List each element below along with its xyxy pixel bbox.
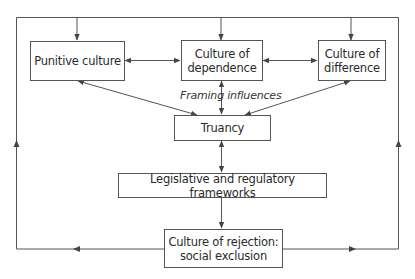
- loop-arrow-right: [349, 246, 356, 252]
- loop-arrow-up-right: [396, 140, 402, 147]
- loop-arrow-left: [73, 246, 80, 252]
- node-truancy: Truancy: [174, 115, 271, 141]
- node-punitive-culture: Punitive culture: [30, 41, 125, 81]
- node-label-line2: difference: [324, 61, 380, 75]
- node-label-line1: Culture of rejection:: [168, 235, 278, 249]
- node-culture-of-difference: Culture of difference: [318, 40, 386, 81]
- framing-influences-label: Framing influences: [180, 89, 281, 102]
- loop-arrow-up-left: [14, 140, 20, 147]
- node-label: Punitive culture: [34, 54, 121, 68]
- node-label-line2: dependence: [187, 61, 256, 75]
- node-culture-of-rejection: Culture of rejection: social exclusion: [164, 229, 283, 268]
- node-culture-of-dependence: Culture of dependence: [181, 40, 263, 81]
- node-label: Truancy: [201, 121, 244, 135]
- node-label-line1: Culture of: [195, 47, 250, 61]
- node-legislative-frameworks: Legislative and regulatory frameworks: [118, 173, 327, 198]
- node-label-line1: Culture of: [325, 47, 380, 61]
- node-label: Legislative and regulatory frameworks: [119, 172, 326, 200]
- node-label-line2: social exclusion: [180, 249, 267, 263]
